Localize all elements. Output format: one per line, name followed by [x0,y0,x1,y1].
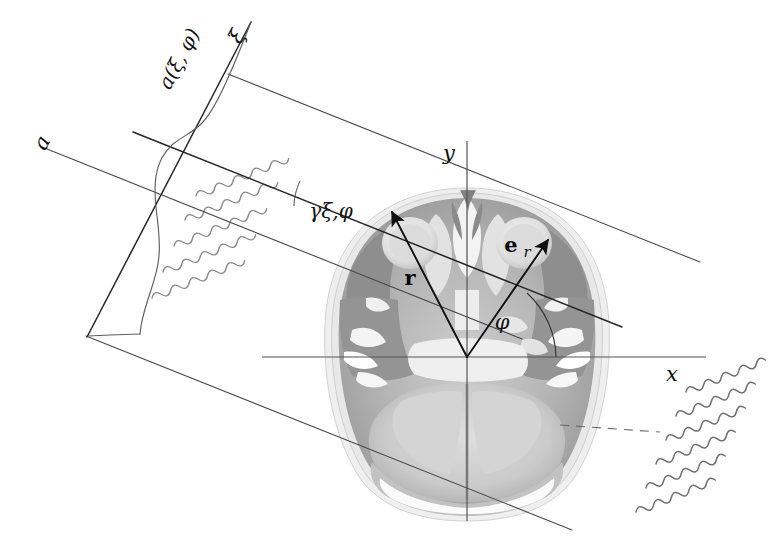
er-vector-label-base: e [504,232,517,257]
radon-geometry-figure: x y ξ a a(ξ, φ) γξ,φ r e r φ [0,0,775,550]
r-vector-label: r [404,265,416,290]
phi-angle-label: φ [495,310,510,334]
x-ray-waves-right [635,357,767,516]
projection-profile-baseline [88,334,140,336]
er-vector-label-subscript: r [523,243,531,261]
x-axis-label: x [666,362,678,386]
x-ray-waves-left [151,155,290,301]
gamma-label-leader [294,181,300,206]
gamma-ray-label: γξ,φ [309,199,352,223]
xi-axis-label: ξ [224,25,251,48]
y-axis-label: y [442,141,456,165]
diagram-canvas: x y ξ a a(ξ, φ) γξ,φ r e r φ [0,0,775,550]
projection-function-label: a(ξ, φ) [153,24,205,93]
